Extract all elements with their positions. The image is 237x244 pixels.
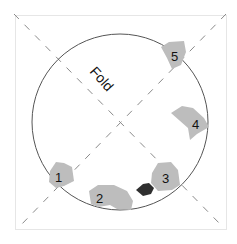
fragment-1: 1 <box>49 162 74 188</box>
fragment-4-label: 4 <box>192 117 199 132</box>
dark-fragment <box>136 183 154 196</box>
fragment-4-shape <box>171 106 209 140</box>
fragment-3: 3 <box>151 162 180 191</box>
fragment-3-label: 3 <box>162 171 169 186</box>
fold-label: Fold <box>87 63 117 94</box>
fragment-5-label: 5 <box>171 49 178 64</box>
fragment-4: 4 <box>171 106 209 140</box>
fragment-5: 5 <box>161 41 186 69</box>
fragment-1-label: 1 <box>55 170 62 185</box>
fragment-2-label: 2 <box>96 191 103 206</box>
fold-diagram: Fold 5 4 1 2 3 <box>0 0 237 244</box>
